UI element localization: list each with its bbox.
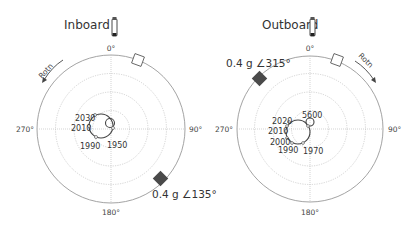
sensor-location-marker bbox=[132, 54, 145, 67]
tick-0: 0° bbox=[306, 44, 315, 53]
sensor-location-marker bbox=[331, 54, 344, 67]
trace-label-1990: 1990 bbox=[80, 142, 100, 151]
rotation-label: Rotn bbox=[37, 61, 55, 80]
inboard-title: Inboard bbox=[64, 18, 110, 32]
trace-label-5600: 5600 bbox=[302, 111, 322, 120]
tick-270: 270° bbox=[215, 125, 233, 134]
trace-label-1990: 1990 bbox=[278, 146, 298, 155]
trace-label-2010: 2010 bbox=[268, 127, 288, 136]
tick-90: 90° bbox=[189, 125, 203, 134]
tick-180: 180° bbox=[301, 208, 319, 217]
imbalance-marker bbox=[252, 71, 268, 87]
tick-0: 0° bbox=[107, 44, 116, 53]
trace-label-1950: 1950 bbox=[107, 141, 127, 150]
imbalance-marker bbox=[153, 171, 169, 187]
trace-label-2010: 2010 bbox=[71, 124, 91, 133]
outboard-polar-plot: Outboard 0° 90° 180° 270° Rotn 0.4 g ∠31… bbox=[215, 17, 402, 217]
polar-charts: Inboard 0° 90° 180° 270° Rotn 0.4 bbox=[0, 0, 416, 230]
tick-270: 270° bbox=[16, 125, 34, 134]
imbalance-annotation: 0.4 g ∠315° bbox=[226, 57, 291, 69]
rotation-label: Rotn bbox=[357, 51, 376, 70]
imbalance-annotation: 0.4 g ∠135° bbox=[152, 188, 217, 200]
inboard-polar-plot: Inboard 0° 90° 180° 270° Rotn 0.4 bbox=[16, 17, 217, 217]
sensor-icon bbox=[310, 17, 315, 36]
tick-90: 90° bbox=[388, 125, 402, 134]
sensor-icon bbox=[112, 17, 117, 36]
trace-label-1970: 1970 bbox=[303, 147, 323, 156]
trace-label-2030: 2030 bbox=[75, 114, 95, 123]
tick-180: 180° bbox=[102, 208, 120, 217]
trace-label-2020: 2020 bbox=[272, 117, 292, 126]
